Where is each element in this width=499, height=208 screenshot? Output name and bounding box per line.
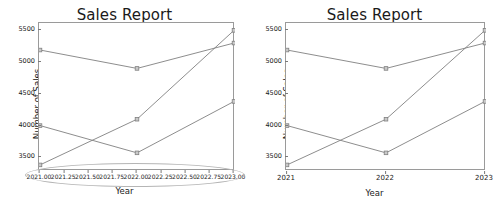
x-tick-label: 2021.00 — [27, 173, 52, 180]
plot-area-right — [285, 22, 485, 170]
x-tick-label: 2022 — [376, 174, 394, 182]
y-tick-label: 5500 — [265, 25, 285, 33]
plot-area-left — [38, 22, 234, 170]
x-tick-label: 2022.75 — [196, 173, 221, 180]
x-tick-label: 2021.75 — [99, 173, 124, 180]
y-tick-label: 3500 — [265, 152, 285, 160]
sales-report-figure: Sales Report Number of Sales 35004000450… — [0, 0, 499, 208]
x-tick-label: 2023.00 — [221, 173, 246, 180]
chart-panel-right: Sales Report Number of Sales 35004000450… — [250, 0, 499, 208]
x-axis-label-right: Year — [250, 188, 499, 198]
x-axis-label-left: Year — [0, 186, 249, 196]
x-tick-label: 2022.50 — [172, 173, 197, 180]
x-tick-label: 2021 — [277, 174, 295, 182]
chart-panel-left: Sales Report Number of Sales 35004000450… — [0, 0, 249, 208]
x-tick-label: 2022.25 — [148, 173, 173, 180]
x-tick-label: 2022.00 — [124, 173, 149, 180]
x-tick-label: 2021.25 — [51, 173, 76, 180]
y-tick-label: 4000 — [18, 121, 38, 129]
y-tick-label: 5000 — [18, 57, 38, 65]
x-tick-label: 2021.50 — [75, 173, 100, 180]
y-tick-label: 5000 — [265, 57, 285, 65]
y-tick-label: 4000 — [265, 121, 285, 129]
y-tick-label: 4500 — [265, 89, 285, 97]
y-tick-label: 3500 — [18, 152, 38, 160]
plot-lines-right — [286, 23, 486, 171]
y-tick-label: 5500 — [18, 25, 38, 33]
x-tick-label: 2023 — [475, 174, 493, 182]
y-tick-label: 4500 — [18, 89, 38, 97]
plot-lines-left — [39, 23, 235, 171]
